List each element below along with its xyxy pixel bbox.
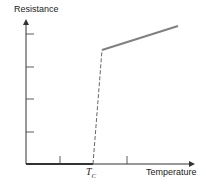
tc-sub: C — [92, 172, 97, 180]
normal-state-line — [102, 26, 178, 50]
resistance-temperature-plot — [0, 0, 206, 184]
x-axis-label: Temperature — [146, 167, 197, 177]
critical-temperature-label: TC — [86, 166, 96, 180]
y-ticks — [26, 34, 34, 132]
y-axis-label: Resistance — [14, 4, 59, 14]
transition-dashed-line — [93, 50, 102, 164]
